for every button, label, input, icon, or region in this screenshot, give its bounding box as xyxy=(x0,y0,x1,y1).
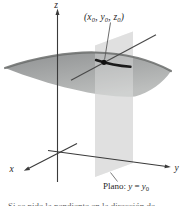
x-axis-label: x xyxy=(9,164,15,174)
plane-label: Plano: y = y0 xyxy=(103,181,149,192)
point-label-close: ) xyxy=(120,12,124,23)
plane-label-rhs-sub: 0 xyxy=(146,185,149,192)
surface xyxy=(5,52,171,96)
plane-label-prefix: Plano: xyxy=(103,181,128,191)
z-axis-label: z xyxy=(53,0,58,10)
y-axis-label: y xyxy=(174,163,180,173)
caption-fragment: Si se pide la pendiente en la dirección … xyxy=(8,201,155,206)
point-label-z: , z xyxy=(108,12,117,22)
plane-label-equals: = xyxy=(132,181,142,191)
figure-canvas: z x y (x0, y0, z0) Plano: y = y0 Si se p… xyxy=(0,0,191,206)
point-marker xyxy=(101,60,106,65)
x-axis-arrowhead xyxy=(24,166,30,170)
figure-container: z x y (x0, y0, z0) Plano: y = y0 Si se p… xyxy=(0,0,191,206)
y-axis-arrowhead xyxy=(165,164,171,168)
x-axis-line xyxy=(27,144,78,170)
point-label: (x0, y0, z0) xyxy=(84,12,124,23)
